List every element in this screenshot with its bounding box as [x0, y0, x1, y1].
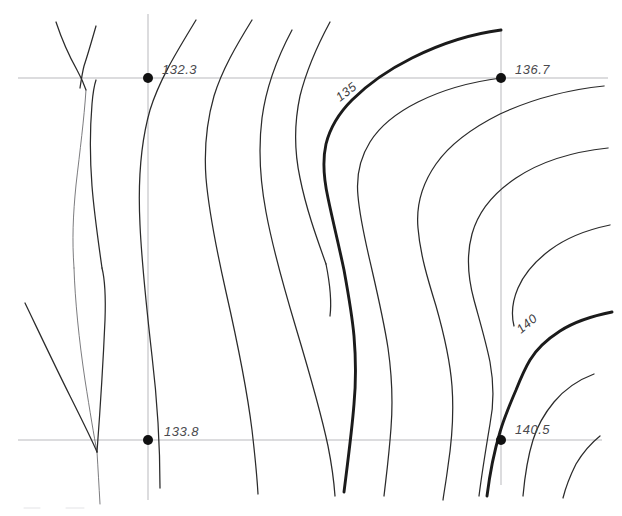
contour-map-canvas: 132.3 136.7 133.8 140.5 135 140	[0, 0, 622, 516]
contour-line-c07	[260, 30, 335, 496]
contour-line-c02-stem	[74, 268, 97, 452]
contour-line-c04-up	[91, 80, 103, 268]
contour-line-c06	[205, 20, 258, 494]
station-label-140-5: 140.5	[515, 422, 550, 437]
contour-line-c01-stem	[73, 90, 86, 268]
station-dot-136-7[interactable]	[496, 73, 506, 83]
station-dot-133-8[interactable]	[143, 435, 153, 445]
contour-line-c17	[326, 264, 331, 316]
station-dot-140-5[interactable]	[496, 435, 506, 445]
station-label-133-8: 133.8	[164, 424, 199, 439]
contour-line-c16	[563, 436, 600, 498]
contour-map-figure: 132.3 136.7 133.8 140.5 135 140	[0, 0, 622, 516]
contour-line-c11	[418, 86, 604, 500]
contour-line-c02	[80, 26, 96, 88]
contour-line-c13	[512, 225, 610, 326]
contour-line-c09-135	[324, 30, 501, 492]
contour-label-group: 135 140	[333, 80, 540, 337]
contour-line-c02-tail	[97, 452, 100, 504]
contour-line-c04	[97, 268, 105, 452]
contour-line-c03	[25, 303, 97, 452]
station-label-132-3: 132.3	[162, 62, 197, 77]
contour-label-135: 135	[333, 80, 359, 105]
contour-line-c14-140	[487, 312, 612, 496]
station-dot-132-3[interactable]	[143, 73, 153, 83]
contour-line-c10	[358, 78, 502, 496]
contour-label-140: 140	[514, 311, 540, 336]
station-label-136-7: 136.7	[515, 62, 550, 77]
